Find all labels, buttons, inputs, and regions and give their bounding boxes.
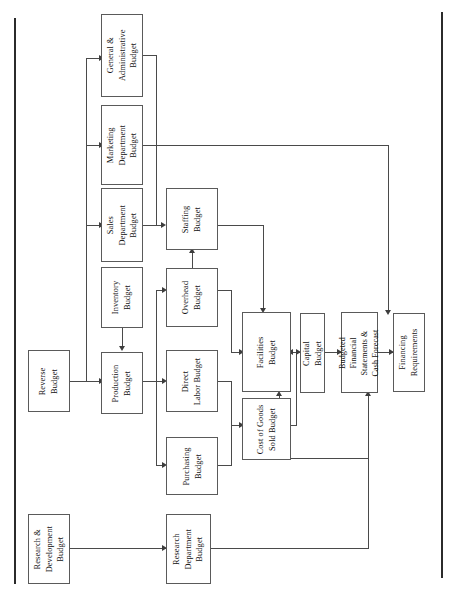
edge-purchasing-up: [231, 425, 232, 466]
node-overhead-budget[interactable]: OverheadBudget: [166, 268, 218, 327]
node-financing-requirements[interactable]: FinancingRequirements: [393, 313, 425, 392]
node-capital-budget[interactable]: CapitalBudget: [300, 313, 325, 393]
page-rule-left: [14, 18, 16, 584]
node-staffing-budget[interactable]: StaffingBudget: [166, 188, 218, 250]
node-research-department-budget[interactable]: ResearchDepartmentBudget: [166, 514, 211, 584]
node-label: General &AdministrativeBudget: [105, 30, 140, 82]
node-label: SalesDepartmentBudget: [105, 205, 140, 246]
edge-revenue-trunk: [70, 381, 87, 382]
edge-overhead-down: [231, 290, 232, 353]
node-label: ProductionBudget: [110, 364, 133, 402]
node-direct-labor-budget[interactable]: DirectLabor Budget: [166, 350, 218, 412]
node-label: Research &DevelopmentBudget: [32, 526, 67, 572]
edge-purchasing-out: [218, 465, 232, 466]
edge-overhead-out: [218, 290, 232, 291]
flowchart-canvas: General &AdministrativeBudget MarketingD…: [0, 0, 467, 597]
node-label: PurchasingBudget: [181, 447, 204, 485]
edge-marketing-out: [143, 145, 389, 146]
node-production-budget[interactable]: ProductionBudget: [101, 352, 143, 414]
node-cost-of-goods-sold-budget[interactable]: Cost of GoodsSold Budget: [242, 398, 291, 460]
node-label: CapitalBudget: [301, 341, 324, 366]
node-label: ResearchDepartmentBudget: [171, 529, 206, 570]
edge-staffing-down: [263, 225, 264, 311]
node-general-administrative-budget[interactable]: General &AdministrativeBudget: [101, 14, 143, 97]
edge-cogs-up: [296, 352, 297, 426]
edge-production-out: [143, 381, 157, 382]
node-label: FinancingRequirements: [398, 329, 421, 377]
node-facilities-budget[interactable]: FacilitiesBudget: [242, 312, 291, 392]
node-label: Cost of GoodsSold Budget: [255, 404, 278, 454]
edge-sales-to-staffing: [143, 225, 163, 226]
edge-researchdept-up: [368, 396, 369, 549]
edge-revenue-riser: [86, 58, 87, 382]
arrowhead-production-top: [119, 346, 125, 351]
edge-marketing-down: [388, 145, 389, 313]
edge-inventory-to-production: [122, 328, 123, 348]
node-label: InventoryBudget: [111, 281, 134, 314]
node-label: StaffingBudget: [180, 205, 203, 233]
edge-researchdept-out: [211, 548, 369, 549]
node-label: ReverseBudget: [38, 367, 61, 395]
node-label: FacilitiesBudget: [255, 336, 278, 368]
edge-directlabor-down: [231, 381, 232, 426]
edge-ga-out: [143, 55, 157, 56]
node-inventory-budget[interactable]: InventoryBudget: [101, 267, 143, 328]
edge-rnd-to-researchdept: [70, 548, 166, 549]
arrowhead-budgetedfs-top-right: [385, 310, 391, 315]
edge-production-bus: [156, 290, 157, 466]
node-label: DirectLabor Budget: [180, 357, 203, 404]
node-sales-department-budget[interactable]: SalesDepartmentBudget: [101, 188, 143, 262]
edge-lower-trunk-to-capital: [279, 458, 369, 459]
node-budgeted-financial-statements[interactable]: BudgetedFinancialStatements &Cash Foreca…: [341, 312, 378, 393]
node-marketing-department-budget[interactable]: MarketingDepartmentBudget: [101, 105, 143, 185]
edge-staffing-out: [218, 225, 264, 226]
node-revenue-budget[interactable]: ReverseBudget: [28, 350, 70, 412]
node-research-development-budget[interactable]: Research &DevelopmentBudget: [28, 514, 70, 584]
edge-directlabor-out: [218, 381, 232, 382]
node-label: MarketingDepartmentBudget: [105, 125, 140, 166]
page-rule-right: [441, 12, 443, 578]
node-purchasing-budget[interactable]: PurchasingBudget: [166, 437, 218, 495]
edge-ga-bus: [156, 55, 157, 226]
node-label: OverheadBudget: [180, 281, 203, 314]
node-label: BudgetedFinancialStatements &Cash Foreca…: [338, 329, 382, 376]
